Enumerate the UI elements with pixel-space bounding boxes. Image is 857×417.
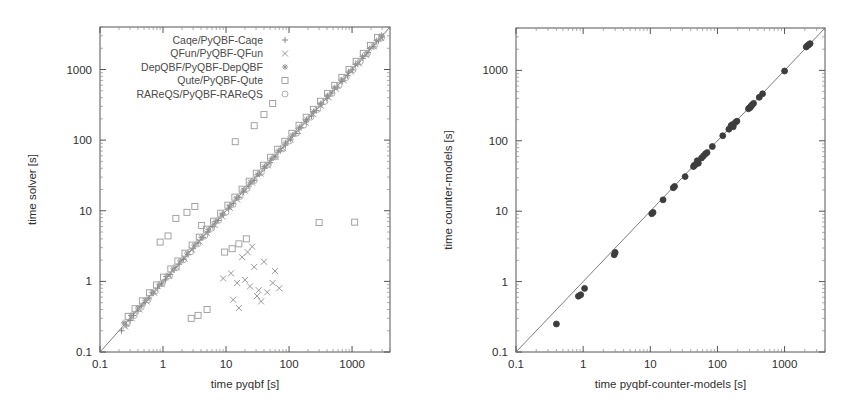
scatter-plot-left: 0.111010010000.11101001000Caqe/PyQBF-Caq…: [0, 0, 430, 417]
x-axis-title: time pyqbf [s]: [211, 378, 279, 390]
plot-panel-right: 0.111010010000.11101001000time pyqbf-cou…: [430, 0, 857, 417]
y-axis-title: time counter-models [s]: [442, 130, 454, 250]
x-tick-label: 100: [708, 358, 727, 370]
x-tick-label: 1000: [339, 358, 365, 370]
plot-panel-left: 0.111010010000.11101001000Caqe/PyQBF-Caq…: [0, 0, 430, 417]
legend-label: RAReQS/PyQBF-RAReQS: [136, 88, 263, 100]
legend-label: Caqe/PyQBF-Caqe: [173, 34, 264, 46]
y-tick-label: 1: [86, 275, 92, 287]
y-tick-label: 10: [79, 205, 92, 217]
x-tick-label: 1000: [772, 358, 798, 370]
legend: Caqe/PyQBF-CaqeQFun/PyQBF-QFunDepQBF/PyQ…: [136, 34, 288, 100]
y-tick-label: 100: [489, 135, 508, 147]
x-tick-label: 100: [279, 358, 298, 370]
y-tick-label: 10: [495, 205, 508, 217]
x-axis-ticks: 0.11101001000: [508, 28, 797, 370]
y-tick-label: 100: [73, 134, 92, 146]
y-tick-label: 1000: [482, 64, 508, 76]
x-tick-label: 1: [580, 358, 586, 370]
x-tick-label: 10: [220, 358, 233, 370]
legend-label: QFun/PyQBF-QFun: [170, 47, 263, 59]
legend-label: Qute/PyQBF-Qute: [177, 74, 263, 86]
x-tick-label: 10: [644, 358, 657, 370]
figure-container: 0.111010010000.11101001000Caqe/PyQBF-Caq…: [0, 0, 857, 417]
y-axis-title: time solver [s]: [26, 154, 38, 225]
x-tick-label: 0.1: [92, 358, 108, 370]
x-tick-label: 1: [160, 358, 166, 370]
y-tick-label: 0.1: [76, 346, 92, 358]
scatter-plot-right: 0.111010010000.11101001000time pyqbf-cou…: [430, 0, 857, 417]
x-axis-title: time pyqbf-counter-models [s]: [595, 378, 746, 390]
data-series: [553, 41, 813, 327]
y-tick-label: 0.1: [492, 346, 508, 358]
x-tick-label: 0.1: [508, 358, 524, 370]
legend-label: DepQBF/PyQBF-DepQBF: [141, 61, 263, 73]
y-tick-label: 1: [502, 276, 508, 288]
y-tick-label: 1000: [66, 64, 92, 76]
diagonal-reference-line: [516, 28, 825, 352]
